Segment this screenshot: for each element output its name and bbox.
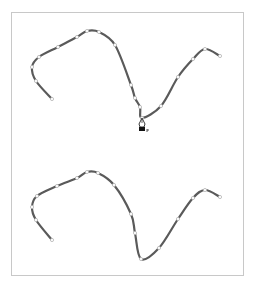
anchor-point[interactable] <box>191 57 194 60</box>
anchor-point[interactable] <box>30 65 33 68</box>
anchor-point[interactable] <box>203 188 206 191</box>
pen-tool-cursor-icon <box>139 118 149 132</box>
anchor-point[interactable] <box>133 96 136 99</box>
anchor-point[interactable] <box>56 45 59 48</box>
anchor-point[interactable] <box>176 75 179 78</box>
anchor-point[interactable] <box>35 194 38 197</box>
anchor-point[interactable] <box>133 231 136 234</box>
anchor-point[interactable] <box>157 246 160 249</box>
anchor-point[interactable] <box>85 170 88 173</box>
anchor-point[interactable] <box>30 205 33 208</box>
anchor-point[interactable] <box>129 212 132 215</box>
top-path[interactable] <box>30 29 221 119</box>
anchor-point[interactable] <box>139 257 142 260</box>
bezier-stroke[interactable] <box>32 171 220 259</box>
anchor-point[interactable] <box>75 176 78 179</box>
anchor-point[interactable] <box>34 79 37 82</box>
anchor-point[interactable] <box>37 55 40 58</box>
anchor-point[interactable] <box>75 35 78 38</box>
anchor-point[interactable] <box>112 183 115 186</box>
anchor-point[interactable] <box>159 104 162 107</box>
anchor-point[interactable] <box>218 195 221 198</box>
anchor-point[interactable] <box>191 196 194 199</box>
anchor-point[interactable] <box>203 47 206 50</box>
anchor-point[interactable] <box>176 217 179 220</box>
anchor-point[interactable] <box>113 43 116 46</box>
anchor-point[interactable] <box>34 218 37 221</box>
anchor-point[interactable] <box>55 184 58 187</box>
anchor-point[interactable] <box>96 171 99 174</box>
anchor-point[interactable] <box>97 30 100 33</box>
anchor-point[interactable] <box>218 54 221 57</box>
anchor-point[interactable] <box>129 83 132 86</box>
anchor-point[interactable] <box>50 238 53 241</box>
anchor-point[interactable] <box>50 97 53 100</box>
bottom-path[interactable] <box>30 170 221 260</box>
caption <box>12 280 252 286</box>
anchor-point[interactable] <box>138 105 141 108</box>
bezier-stroke[interactable] <box>32 30 220 118</box>
anchor-point[interactable] <box>85 29 88 32</box>
drawing-canvas[interactable] <box>0 0 256 286</box>
